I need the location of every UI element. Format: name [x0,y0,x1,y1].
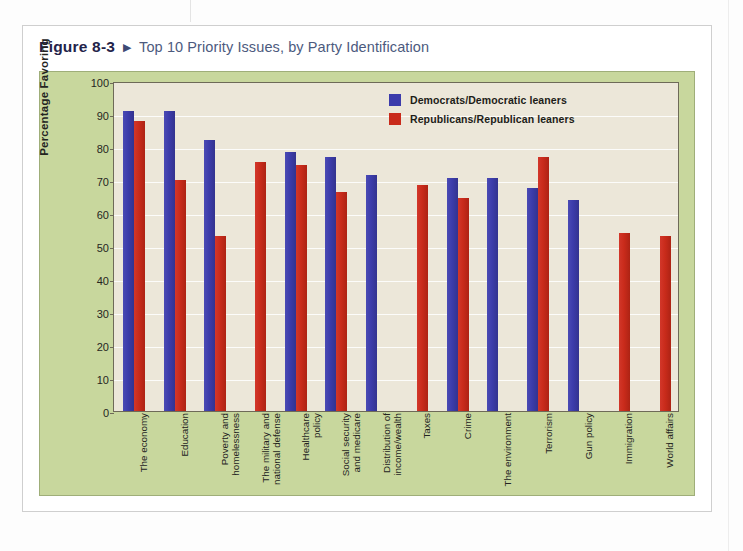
bar-republican [660,236,671,411]
x-axis-tick-label: Terrorism [543,413,554,488]
bar-group [235,83,275,411]
bar-group [397,83,437,411]
figure-title: Top 10 Priority Issues, by Party Identif… [139,39,429,55]
x-axis-tick-label: Social security and medicare [340,413,362,488]
x-axis-tick-label: World affairs [664,413,675,488]
bar-group [357,83,397,411]
legend-item-democrats: Democrats/Democratic leaners [389,94,575,106]
bar-republican [255,162,266,411]
bar-republican [134,121,145,411]
x-axis-tick-label: Distribution of income/wealth [381,413,403,488]
bar-group [154,83,194,411]
triangle-right-icon: ▶ [123,41,131,54]
bar-democrat [204,140,215,411]
chart-panel: Percentage Favoring 01020304050607080901… [39,71,695,496]
bar-democrat [366,175,377,411]
y-axis-tick-label: 60 [97,209,109,221]
x-axis-tick-label: Taxes [421,413,432,488]
bar-group [437,83,477,411]
figure-header: Figure 8-3 ▶ Top 10 Priority Issues, by … [39,38,429,56]
bar-republican [215,236,226,411]
bar-group [478,83,518,411]
x-axis-tick-label: The economy [138,413,149,488]
legend-label-democrats: Democrats/Democratic leaners [410,94,567,106]
y-axis-tick-label: 80 [97,143,109,155]
y-axis-tick-label: 70 [97,176,109,188]
y-axis-tick-label: 20 [97,341,109,353]
bar-republican [296,165,307,411]
bar-democrat [568,200,579,411]
page-canvas: Figure 8-3 ▶ Top 10 Priority Issues, by … [0,0,743,551]
x-axis-tick-label: Immigration [623,413,634,488]
y-axis-tick-label: 30 [97,308,109,320]
bar-democrat [285,152,296,411]
y-axis-title: Percentage Favoring [38,17,50,177]
legend-label-republicans: Republicans/Republican leaners [410,113,575,125]
y-axis-tick-label: 100 [91,77,109,89]
x-axis-tick-label: The military and national defense [260,413,282,488]
bar-republican [417,185,428,411]
x-axis-tick-label: Crime [462,413,473,488]
bar-republican [538,157,549,411]
bar-republican [336,192,347,411]
bar-group [114,83,154,411]
figure-number: Figure 8-3 [39,38,115,56]
page-guide-line [190,0,191,22]
bar-group [640,83,680,411]
x-axis-tick-label: Gun policy [583,413,594,488]
y-axis-tick-label: 10 [97,374,109,386]
y-axis-tick-label: 90 [97,110,109,122]
bar-democrat [447,178,458,411]
plot-area: 0102030405060708090100 [113,82,679,412]
legend-swatch-democrats-icon [389,94,401,106]
bar-group [559,83,599,411]
y-axis-tick-label: 0 [103,407,109,419]
x-axis-tick-label: The environment [502,413,513,488]
x-axis-tick-label: Education [179,413,190,488]
figure-card: Figure 8-3 ▶ Top 10 Priority Issues, by … [22,25,712,512]
y-axis-tick-label: 40 [97,275,109,287]
bar-group [195,83,235,411]
bar-republican [175,180,186,411]
y-axis-tick-mark [110,413,114,414]
bar-republican [458,198,469,411]
bar-group [518,83,558,411]
bar-democrat [325,157,336,411]
y-axis-tick-label: 50 [97,242,109,254]
x-axis-tick-label: Healthcare policy [300,413,322,488]
page-guide-line-right [728,0,729,551]
bar-democrat [164,111,175,411]
x-axis-tick-label: Poverty and homelessness [219,413,241,488]
bar-series-container [114,83,678,411]
chart-legend: Democrats/Democratic leaners Republicans… [389,94,575,125]
x-axis-labels: The economyEducationPoverty and homeless… [113,416,679,491]
legend-swatch-republicans-icon [389,113,401,125]
bar-group [316,83,356,411]
bar-democrat [123,111,134,411]
bar-group [276,83,316,411]
bar-democrat [527,188,538,411]
bar-group [599,83,639,411]
bar-democrat [487,178,498,411]
legend-item-republicans: Republicans/Republican leaners [389,113,575,125]
bar-republican [619,233,630,411]
